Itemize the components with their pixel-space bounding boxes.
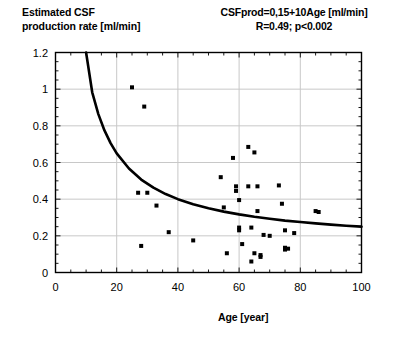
data-point-marker — [286, 247, 290, 251]
y-axis-tick-label: 1 — [14, 83, 48, 95]
data-point-marker — [246, 184, 250, 188]
data-point-marker — [262, 233, 266, 237]
data-point-marker — [154, 204, 158, 208]
x-axis-tick-label: 40 — [172, 281, 184, 293]
data-point-marker — [268, 234, 272, 238]
scatter-plot-figure: Estimated CSF production rate [ml/min] C… — [0, 0, 394, 343]
data-point-marker — [259, 255, 263, 259]
regression-curve — [86, 53, 361, 227]
regression-annotation: CSFprod=0,15+10Age [ml/min] R=0.49; p<0.… — [196, 6, 392, 33]
data-point-marker — [292, 231, 296, 235]
data-point-marker — [191, 238, 195, 242]
data-point-marker — [237, 228, 241, 232]
data-point-marker — [277, 183, 281, 187]
x-axis-tick-label: 80 — [294, 281, 306, 293]
data-point-marker — [255, 209, 259, 213]
data-point-marker — [219, 175, 223, 179]
y-axis-tick-label: 0 — [14, 267, 48, 279]
y-axis-tick-label: 1.2 — [14, 47, 48, 59]
data-point-marker — [222, 205, 226, 209]
data-point-marker — [225, 251, 229, 255]
y-axis-tick-label: 0.6 — [14, 157, 48, 169]
data-point-marker — [237, 198, 241, 202]
data-point-marker — [252, 150, 256, 154]
regression-equation: CSFprod=0,15+10Age [ml/min] — [196, 6, 392, 20]
data-point-marker — [167, 230, 171, 234]
data-point-marker — [283, 228, 287, 232]
data-point-marker — [234, 184, 238, 188]
data-point-marker — [231, 156, 235, 160]
data-point-marker — [139, 244, 143, 248]
data-point-marker — [280, 202, 284, 206]
data-point-marker — [130, 85, 134, 89]
data-point-marker — [246, 145, 250, 149]
y-axis-title: Estimated CSF production rate [ml/min] — [22, 6, 140, 33]
x-axis-tick-label: 20 — [111, 281, 123, 293]
data-point-marker — [317, 210, 321, 214]
data-point-marker — [145, 191, 149, 195]
data-point-marker — [249, 260, 253, 264]
y-axis-tick-label: 0.8 — [14, 120, 48, 132]
regression-statistics: R=0.49; p<0.002 — [196, 20, 392, 34]
data-points — [130, 85, 321, 263]
y-axis-tick-label: 0.2 — [14, 230, 48, 242]
x-axis-tick-label: 100 — [352, 281, 370, 293]
grid-lines — [56, 53, 362, 273]
data-point-marker — [252, 251, 256, 255]
x-axis-tick-label: 60 — [233, 281, 245, 293]
data-point-marker — [249, 226, 253, 230]
data-point-marker — [240, 242, 244, 246]
x-axis-tick-label: 0 — [52, 281, 58, 293]
plot-canvas — [0, 0, 394, 343]
data-point-marker — [136, 191, 140, 195]
x-axis-title: Age [year] — [218, 311, 268, 323]
data-point-marker — [255, 184, 259, 188]
y-axis-tick-label: 0.4 — [14, 193, 48, 205]
data-point-marker — [234, 189, 238, 193]
data-point-marker — [142, 105, 146, 109]
